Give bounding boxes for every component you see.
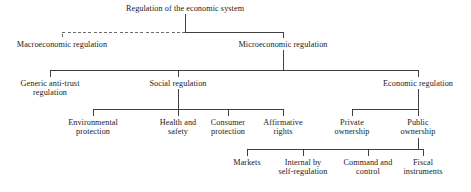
- node-consumer: Consumer protection: [200, 118, 256, 137]
- connector-micro-to-econ: [283, 70, 418, 77]
- connector-social-to-cons: [178, 109, 228, 116]
- node-root: Regulation of the economic system: [105, 4, 265, 13]
- connector-social-to-env: [93, 109, 178, 116]
- regulation-hierarchy-diagram: Regulation of the economic systemMacroec…: [0, 0, 471, 192]
- connector-public-to-mkt: [247, 149, 418, 156]
- connector-public-to-fis: [418, 149, 423, 156]
- node-markets: Markets: [220, 158, 274, 167]
- connector-root-to-micro: [185, 32, 283, 38]
- node-health: Health and safety: [148, 118, 208, 137]
- node-social: Social regulation: [131, 79, 225, 88]
- connector-micro-to-anti: [50, 70, 283, 77]
- node-macro: Macroeconomic regulation: [2, 40, 122, 49]
- node-environmental: Environmental protection: [54, 118, 132, 137]
- node-economic: Economic regulation: [366, 79, 470, 88]
- node-micro: Microeconomic regulation: [223, 40, 343, 49]
- connector-root-to-macro: [62, 32, 185, 38]
- node-affirmative: Affirmative rights: [254, 118, 312, 137]
- node-internal: Internal by self-regulation: [267, 158, 339, 177]
- node-fiscal: Fiscal instruments: [392, 158, 454, 177]
- connector-econ-to-priv: [352, 109, 418, 116]
- connector-social-to-aff: [228, 109, 283, 116]
- node-public: Public ownership: [389, 118, 447, 137]
- node-antitrust: Generic anti-trust regulation: [3, 79, 97, 98]
- node-private: Private ownership: [323, 118, 381, 137]
